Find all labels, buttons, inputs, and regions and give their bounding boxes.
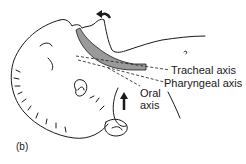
pharyngeal-axis-label: Pharyngeal axis [164,77,242,89]
tracheal-axis-label: Tracheal axis [171,64,236,76]
ear [74,80,86,96]
neck-front [104,20,205,52]
panel-label: (b) [16,141,28,153]
oral-axis-line [108,68,140,86]
oral-axis-label-line2: axis [140,99,160,111]
face-profile [60,19,104,28]
cheek [48,58,53,70]
head-outline [11,20,108,138]
hair-hatching [14,70,104,132]
eye [40,43,52,46]
collar-line [168,92,180,118]
oral-axis-label-line1: Oral [140,87,161,99]
ear-inner [78,87,84,90]
airway-diagram: Tracheal axis Pharyngeal axis Oral axis … [0,0,246,164]
